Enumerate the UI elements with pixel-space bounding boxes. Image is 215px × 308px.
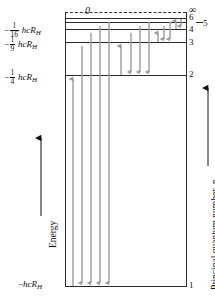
lyman-series-arrows bbox=[73, 22, 109, 286]
quantum-number-symbol: n bbox=[210, 180, 215, 185]
n-label-4: 4 bbox=[189, 25, 194, 34]
energy-level-diagram: 0 −116 hcRH −19 hcRH −14 hcRH −hcRH bbox=[0, 0, 215, 308]
n-label-3: 3 bbox=[189, 38, 194, 47]
energy-axis-arrow bbox=[33, 130, 49, 220]
paschen-series-arrows bbox=[158, 22, 170, 42]
balmer-series-arrows bbox=[121, 22, 149, 75]
quantum-number-caption-text: Principal quantum number, bbox=[210, 187, 215, 290]
quantum-number-axis-arrow bbox=[200, 80, 215, 170]
energy-axis-caption: Energy bbox=[48, 221, 58, 248]
brackett-series-arrows bbox=[176, 19, 181, 29]
n-label-1: 1 bbox=[189, 281, 194, 290]
quantum-number-axis-caption: Principal quantum number, n bbox=[210, 180, 215, 290]
n-label-6: 6 bbox=[189, 13, 194, 22]
n-label-2: 2 bbox=[189, 70, 194, 79]
n-label-5: 5 bbox=[203, 19, 208, 28]
tick-to-n5-label bbox=[196, 22, 203, 23]
